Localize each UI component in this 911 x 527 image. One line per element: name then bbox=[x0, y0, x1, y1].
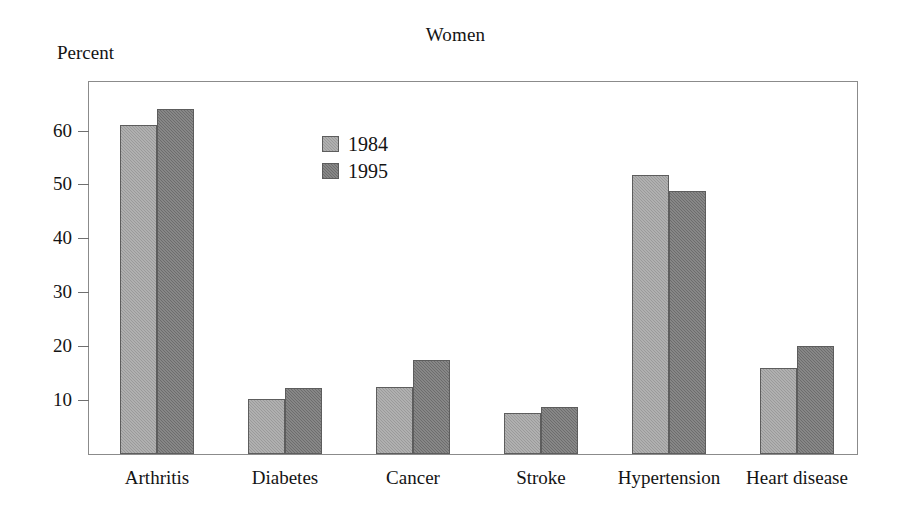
x-label-arthritis: Arthritis bbox=[125, 467, 189, 489]
x-label-cancer: Cancer bbox=[386, 467, 440, 489]
bar-diabetes-1995 bbox=[285, 388, 322, 454]
bar-arthritis-1984 bbox=[120, 125, 157, 454]
x-label-diabetes: Diabetes bbox=[252, 467, 318, 489]
y-tick-mark bbox=[78, 346, 89, 347]
bar-diabetes-1984 bbox=[248, 399, 285, 454]
legend: 1984 1995 bbox=[322, 130, 388, 184]
y-tick-mark bbox=[78, 184, 89, 185]
y-tick-mark bbox=[78, 238, 89, 239]
y-tick-mark bbox=[78, 292, 89, 293]
bar-hypertension-1984 bbox=[632, 175, 669, 454]
bar-heart-disease-1984 bbox=[760, 368, 797, 454]
plot-area bbox=[89, 82, 857, 454]
x-label-heart-disease: Heart disease bbox=[746, 467, 848, 489]
bar-chart: Women Percent 102030405060 1984 1995 Art… bbox=[0, 0, 911, 527]
y-tick-label: 60 bbox=[32, 121, 72, 140]
legend-item-1984: 1984 bbox=[322, 130, 388, 157]
bar-arthritis-1995 bbox=[157, 109, 194, 454]
chart-title: Women bbox=[0, 24, 911, 46]
bar-cancer-1995 bbox=[413, 360, 450, 454]
y-tick-mark bbox=[78, 131, 89, 132]
y-tick-label: 20 bbox=[32, 336, 72, 355]
x-label-stroke: Stroke bbox=[516, 467, 566, 489]
y-tick-mark bbox=[78, 400, 89, 401]
y-tick-label: 40 bbox=[32, 228, 72, 247]
y-tick-label: 30 bbox=[32, 282, 72, 301]
y-tick-label: 50 bbox=[32, 174, 72, 193]
legend-swatch-1984 bbox=[322, 136, 339, 152]
legend-swatch-1995 bbox=[322, 163, 339, 179]
bar-heart-disease-1995 bbox=[797, 346, 834, 454]
bar-stroke-1995 bbox=[541, 407, 578, 454]
y-axis-caption: Percent bbox=[57, 42, 114, 64]
x-label-hypertension: Hypertension bbox=[618, 467, 720, 489]
y-tick-label: 10 bbox=[32, 390, 72, 409]
bar-hypertension-1995 bbox=[669, 191, 706, 454]
bar-cancer-1984 bbox=[376, 387, 413, 454]
legend-label-1984: 1984 bbox=[348, 134, 388, 154]
bar-stroke-1984 bbox=[504, 413, 541, 454]
legend-item-1995: 1995 bbox=[322, 157, 388, 184]
legend-label-1995: 1995 bbox=[348, 161, 388, 181]
